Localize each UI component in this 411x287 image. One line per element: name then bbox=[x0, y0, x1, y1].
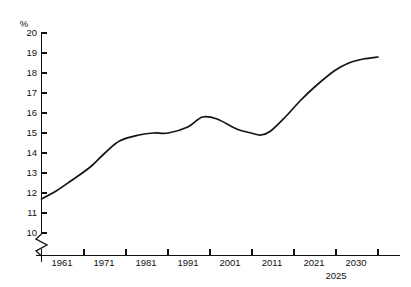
y-tick-label-18: 18 bbox=[26, 67, 37, 78]
y-tick-label-20: 20 bbox=[26, 27, 37, 38]
chart-container: % 20 19 18 17 16 15 14 13 1 bbox=[0, 0, 411, 287]
line-chart: % 20 19 18 17 16 15 14 13 1 bbox=[0, 0, 411, 287]
x-axis-labels: 1961 1971 1981 1991 2001 2011 2021 2030 … bbox=[51, 257, 366, 281]
x-tick-label-2021: 2021 bbox=[303, 257, 324, 268]
y-axis-ticks: 20 19 18 17 16 15 14 13 12 11 10 bbox=[26, 27, 47, 238]
y-tick-label-12: 12 bbox=[26, 187, 37, 198]
series-line-share bbox=[42, 57, 379, 199]
y-tick-label-10: 10 bbox=[26, 227, 37, 238]
y-tick-label-13: 13 bbox=[26, 167, 37, 178]
x-tick-label-1971: 1971 bbox=[93, 257, 114, 268]
y-tick-label-16: 16 bbox=[26, 107, 37, 118]
x-axis-ticks bbox=[42, 249, 379, 256]
x-tick-label-2030: 2030 bbox=[345, 257, 366, 268]
x-tick-label-1961: 1961 bbox=[51, 257, 72, 268]
x-tick-label-2001: 2001 bbox=[219, 257, 240, 268]
y-tick-label-17: 17 bbox=[26, 87, 37, 98]
y-tick-label-15: 15 bbox=[26, 127, 37, 138]
x-tick-label-2025: 2025 bbox=[325, 270, 346, 281]
y-tick-label-11: 11 bbox=[27, 207, 37, 218]
y-tick-label-19: 19 bbox=[26, 47, 37, 58]
y-tick-label-14: 14 bbox=[26, 147, 37, 158]
x-tick-label-1981: 1981 bbox=[135, 257, 156, 268]
x-tick-label-2011: 2011 bbox=[262, 257, 282, 268]
x-tick-label-1991: 1991 bbox=[177, 257, 198, 268]
